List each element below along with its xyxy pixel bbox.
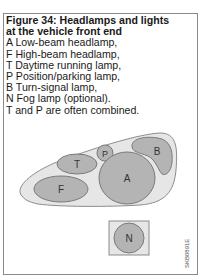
label-a: A bbox=[124, 173, 131, 184]
label-n: N bbox=[125, 233, 132, 244]
figure-code-text: SKB0891E bbox=[184, 239, 190, 268]
label-f: F bbox=[58, 184, 64, 195]
label-t: T bbox=[74, 159, 80, 170]
label-b: B bbox=[154, 146, 161, 157]
figure-code: SKB0891E bbox=[184, 232, 194, 268]
label-p: P bbox=[102, 149, 108, 159]
